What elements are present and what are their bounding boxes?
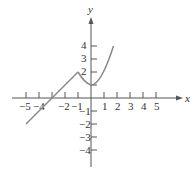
- x-tick-label: 3: [128, 100, 134, 112]
- y-axis-label: y: [87, 3, 93, 15]
- function-graph: x y −5 −4 −2 −1 1 2 3 4 5: [0, 0, 193, 175]
- y-tick-label: 2: [81, 65, 87, 77]
- y-tick-label: −2: [79, 118, 91, 130]
- y-tick-label: −4: [79, 144, 91, 156]
- x-axis-arrow-icon: [176, 96, 183, 101]
- x-tick-label: −2: [58, 100, 70, 112]
- y-tick-label: −3: [79, 131, 91, 143]
- y-tick-label: 3: [81, 52, 87, 64]
- y-tick-label: 4: [81, 39, 87, 51]
- y-tick-label: −1: [79, 105, 91, 117]
- x-tick-label: 2: [115, 100, 121, 112]
- x-tick-label: 5: [154, 100, 160, 112]
- x-tick-label: 4: [141, 100, 147, 112]
- x-tick-label: −5: [19, 100, 31, 112]
- x-tick-label: 1: [102, 100, 108, 112]
- y-axis-arrow-icon: [89, 17, 94, 24]
- x-axis-label: x: [184, 92, 190, 104]
